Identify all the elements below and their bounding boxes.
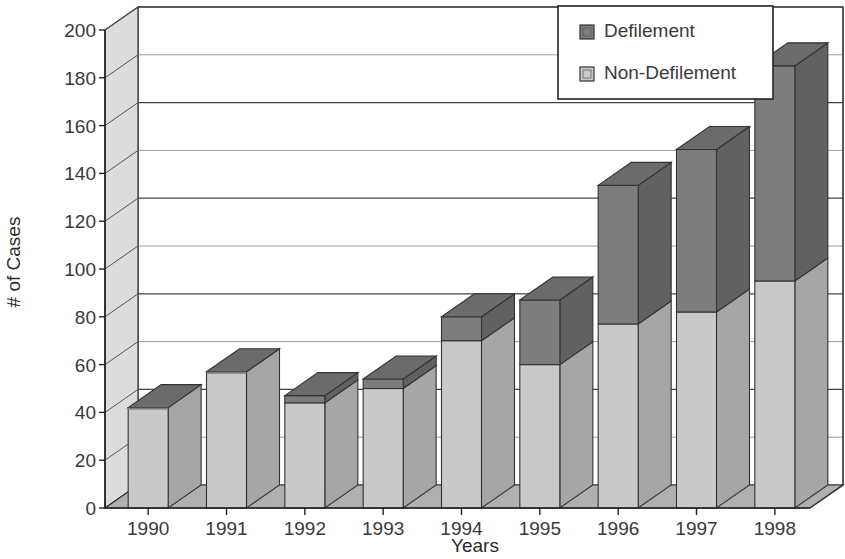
bar-column bbox=[598, 162, 671, 508]
stacked-bar-chart: 020406080100120140160180200 199019911992… bbox=[0, 0, 845, 559]
x-tick-label: 1996 bbox=[597, 518, 639, 539]
legend-label: Defilement bbox=[604, 20, 696, 41]
bar-column bbox=[755, 43, 828, 508]
y-tick-label: 40 bbox=[75, 402, 96, 423]
chart-container: 020406080100120140160180200 199019911992… bbox=[0, 0, 845, 559]
bar-column bbox=[285, 373, 358, 508]
y-tick-label: 100 bbox=[64, 259, 96, 280]
y-tick-label: 20 bbox=[75, 450, 96, 471]
legend-swatch-inner bbox=[583, 70, 591, 78]
y-tick-label: 180 bbox=[64, 68, 96, 89]
x-tick-label: 1993 bbox=[362, 518, 404, 539]
y-tick-label: 80 bbox=[75, 307, 96, 328]
legend-swatch-inner bbox=[583, 28, 591, 36]
bar-column bbox=[677, 127, 750, 509]
bar-column bbox=[442, 294, 515, 508]
x-axis-title: Years bbox=[451, 535, 499, 556]
bar-column bbox=[363, 356, 436, 508]
x-tick-label: 1991 bbox=[205, 518, 247, 539]
chart-legend: DefilementNon-Defilement bbox=[558, 6, 773, 99]
bar-column bbox=[207, 349, 280, 508]
y-tick-label: 200 bbox=[64, 20, 96, 41]
y-tick-label: 140 bbox=[64, 163, 96, 184]
bar-column bbox=[520, 277, 593, 508]
x-tick-label: 1995 bbox=[519, 518, 561, 539]
y-tick-label: 0 bbox=[85, 498, 96, 519]
y-tick-label: 120 bbox=[64, 211, 96, 232]
x-tick-label: 1997 bbox=[675, 518, 717, 539]
y-axis-tick-labels: 020406080100120140160180200 bbox=[64, 20, 96, 519]
y-tick-label: 60 bbox=[75, 355, 96, 376]
x-tick-label: 1992 bbox=[284, 518, 326, 539]
x-tick-label: 1990 bbox=[127, 518, 169, 539]
legend-label: Non-Defilement bbox=[604, 62, 737, 83]
y-tick-label: 160 bbox=[64, 116, 96, 137]
y-axis-title: # of Cases bbox=[3, 217, 24, 308]
bar-column bbox=[128, 385, 201, 508]
x-tick-label: 1998 bbox=[754, 518, 796, 539]
